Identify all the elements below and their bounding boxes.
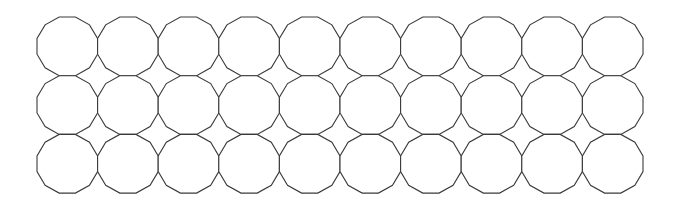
dodecagon-cell (98, 17, 159, 76)
dodecagon-cell (279, 134, 340, 193)
dodecagon-cell (461, 17, 522, 76)
dodecagon-cell (401, 134, 462, 193)
dodecagon-cell (340, 17, 401, 76)
dodecagon-cell (219, 134, 280, 193)
dodecagon-cell (37, 134, 98, 193)
dodecagon-cell (158, 17, 219, 76)
dodecagon-cell (582, 134, 643, 193)
dodecagon-cell (582, 76, 643, 135)
dodecagon-cell (582, 17, 643, 76)
dodecagon-cell (158, 76, 219, 135)
dodecagon-cell (401, 76, 462, 135)
dodecagon-tiling-diagram (0, 0, 676, 210)
dodecagon-cell (219, 17, 280, 76)
dodecagon-cell (37, 17, 98, 76)
dodecagon-cell (522, 134, 583, 193)
dodecagon-cell (37, 76, 98, 135)
dodecagon-cell (522, 17, 583, 76)
dodecagon-cell (340, 76, 401, 135)
dodecagon-grid (37, 17, 643, 193)
dodecagon-cell (219, 76, 280, 135)
dodecagon-cell (461, 134, 522, 193)
dodecagon-cell (98, 134, 159, 193)
dodecagon-cell (461, 76, 522, 135)
dodecagon-cell (98, 76, 159, 135)
dodecagon-cell (279, 76, 340, 135)
dodecagon-cell (158, 134, 219, 193)
dodecagon-cell (522, 76, 583, 135)
dodecagon-cell (340, 134, 401, 193)
dodecagon-cell (401, 17, 462, 76)
dodecagon-cell (279, 17, 340, 76)
